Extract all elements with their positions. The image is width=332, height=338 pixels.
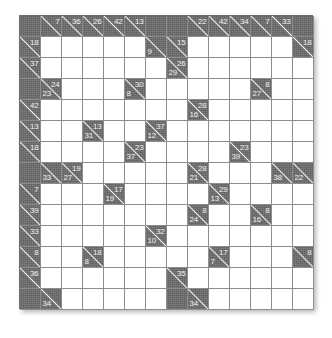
entry-cell-r8c11[interactable] bbox=[251, 184, 272, 205]
entry-cell-r10c4[interactable] bbox=[104, 226, 125, 247]
entry-cell-r9c12[interactable] bbox=[272, 205, 293, 226]
entry-cell-r6c12[interactable] bbox=[272, 142, 293, 163]
entry-cell-r4c13[interactable] bbox=[293, 100, 314, 121]
entry-cell-r6c6[interactable] bbox=[146, 142, 167, 163]
entry-cell-r1c1[interactable] bbox=[41, 37, 62, 58]
entry-cell-r4c12[interactable] bbox=[272, 100, 293, 121]
entry-cell-r6c11[interactable] bbox=[251, 142, 272, 163]
entry-cell-r12c1[interactable] bbox=[41, 268, 62, 289]
entry-cell-r8c10[interactable] bbox=[230, 184, 251, 205]
entry-cell-r11c12[interactable] bbox=[272, 247, 293, 268]
entry-cell-r10c8[interactable] bbox=[188, 226, 209, 247]
entry-cell-r2c6[interactable] bbox=[146, 58, 167, 79]
entry-cell-r8c5[interactable] bbox=[125, 184, 146, 205]
entry-cell-r11c4[interactable] bbox=[104, 247, 125, 268]
entry-cell-r9c10[interactable] bbox=[230, 205, 251, 226]
entry-cell-r5c10[interactable] bbox=[230, 121, 251, 142]
entry-cell-r8c1[interactable] bbox=[41, 184, 62, 205]
entry-cell-r9c7[interactable] bbox=[167, 205, 188, 226]
entry-cell-r6c2[interactable] bbox=[62, 142, 83, 163]
entry-cell-r6c13[interactable] bbox=[293, 142, 314, 163]
entry-cell-r13c3[interactable] bbox=[83, 289, 104, 310]
entry-cell-r4c6[interactable] bbox=[146, 100, 167, 121]
entry-cell-r1c2[interactable] bbox=[62, 37, 83, 58]
entry-cell-r12c3[interactable] bbox=[83, 268, 104, 289]
entry-cell-r7c9[interactable] bbox=[209, 163, 230, 184]
entry-cell-r12c10[interactable] bbox=[230, 268, 251, 289]
entry-cell-r10c11[interactable] bbox=[251, 226, 272, 247]
entry-cell-r5c2[interactable] bbox=[62, 121, 83, 142]
entry-cell-r8c2[interactable] bbox=[62, 184, 83, 205]
entry-cell-r4c4[interactable] bbox=[104, 100, 125, 121]
entry-cell-r11c8[interactable] bbox=[188, 247, 209, 268]
entry-cell-r9c2[interactable] bbox=[62, 205, 83, 226]
entry-cell-r13c5[interactable] bbox=[125, 289, 146, 310]
entry-cell-r3c6[interactable] bbox=[146, 79, 167, 100]
entry-cell-r1c11[interactable] bbox=[251, 37, 272, 58]
entry-cell-r12c6[interactable] bbox=[146, 268, 167, 289]
entry-cell-r11c11[interactable] bbox=[251, 247, 272, 268]
entry-cell-r13c4[interactable] bbox=[104, 289, 125, 310]
entry-cell-r5c12[interactable] bbox=[272, 121, 293, 142]
entry-cell-r4c3[interactable] bbox=[83, 100, 104, 121]
entry-cell-r10c3[interactable] bbox=[83, 226, 104, 247]
entry-cell-r3c8[interactable] bbox=[188, 79, 209, 100]
entry-cell-r5c1[interactable] bbox=[41, 121, 62, 142]
entry-cell-r4c9[interactable] bbox=[209, 100, 230, 121]
entry-cell-r7c6[interactable] bbox=[146, 163, 167, 184]
entry-cell-r9c13[interactable] bbox=[293, 205, 314, 226]
entry-cell-r9c6[interactable] bbox=[146, 205, 167, 226]
entry-cell-r2c3[interactable] bbox=[83, 58, 104, 79]
entry-cell-r12c9[interactable] bbox=[209, 268, 230, 289]
entry-cell-r2c4[interactable] bbox=[104, 58, 125, 79]
entry-cell-r3c13[interactable] bbox=[293, 79, 314, 100]
entry-cell-r8c13[interactable] bbox=[293, 184, 314, 205]
entry-cell-r3c9[interactable] bbox=[209, 79, 230, 100]
entry-cell-r6c1[interactable] bbox=[41, 142, 62, 163]
entry-cell-r2c8[interactable] bbox=[188, 58, 209, 79]
entry-cell-r8c6[interactable] bbox=[146, 184, 167, 205]
entry-cell-r9c3[interactable] bbox=[83, 205, 104, 226]
entry-cell-r4c10[interactable] bbox=[230, 100, 251, 121]
entry-cell-r8c7[interactable] bbox=[167, 184, 188, 205]
entry-cell-r8c8[interactable] bbox=[188, 184, 209, 205]
entry-cell-r9c5[interactable] bbox=[125, 205, 146, 226]
entry-cell-r1c5[interactable] bbox=[125, 37, 146, 58]
entry-cell-r12c5[interactable] bbox=[125, 268, 146, 289]
entry-cell-r7c11[interactable] bbox=[251, 163, 272, 184]
entry-cell-r11c5[interactable] bbox=[125, 247, 146, 268]
entry-cell-r11c6[interactable] bbox=[146, 247, 167, 268]
entry-cell-r13c13[interactable] bbox=[293, 289, 314, 310]
entry-cell-r1c9[interactable] bbox=[209, 37, 230, 58]
entry-cell-r13c6[interactable] bbox=[146, 289, 167, 310]
entry-cell-r5c7[interactable] bbox=[167, 121, 188, 142]
entry-cell-r1c4[interactable] bbox=[104, 37, 125, 58]
entry-cell-r9c1[interactable] bbox=[41, 205, 62, 226]
entry-cell-r3c3[interactable] bbox=[83, 79, 104, 100]
entry-cell-r2c13[interactable] bbox=[293, 58, 314, 79]
entry-cell-r2c12[interactable] bbox=[272, 58, 293, 79]
entry-cell-r2c9[interactable] bbox=[209, 58, 230, 79]
entry-cell-r10c12[interactable] bbox=[272, 226, 293, 247]
kakuro-grid[interactable]: 7362642132242347331891518372629242330882… bbox=[19, 15, 313, 309]
entry-cell-r3c12[interactable] bbox=[272, 79, 293, 100]
entry-cell-r9c9[interactable] bbox=[209, 205, 230, 226]
entry-cell-r4c5[interactable] bbox=[125, 100, 146, 121]
entry-cell-r13c9[interactable] bbox=[209, 289, 230, 310]
entry-cell-r12c2[interactable] bbox=[62, 268, 83, 289]
entry-cell-r11c2[interactable] bbox=[62, 247, 83, 268]
entry-cell-r1c8[interactable] bbox=[188, 37, 209, 58]
entry-cell-r3c10[interactable] bbox=[230, 79, 251, 100]
entry-cell-r2c2[interactable] bbox=[62, 58, 83, 79]
entry-cell-r3c7[interactable] bbox=[167, 79, 188, 100]
entry-cell-r5c8[interactable] bbox=[188, 121, 209, 142]
entry-cell-r2c10[interactable] bbox=[230, 58, 251, 79]
entry-cell-r7c3[interactable] bbox=[83, 163, 104, 184]
entry-cell-r11c1[interactable] bbox=[41, 247, 62, 268]
entry-cell-r13c10[interactable] bbox=[230, 289, 251, 310]
entry-cell-r4c1[interactable] bbox=[41, 100, 62, 121]
entry-cell-r10c5[interactable] bbox=[125, 226, 146, 247]
entry-cell-r6c9[interactable] bbox=[209, 142, 230, 163]
entry-cell-r7c4[interactable] bbox=[104, 163, 125, 184]
entry-cell-r4c11[interactable] bbox=[251, 100, 272, 121]
